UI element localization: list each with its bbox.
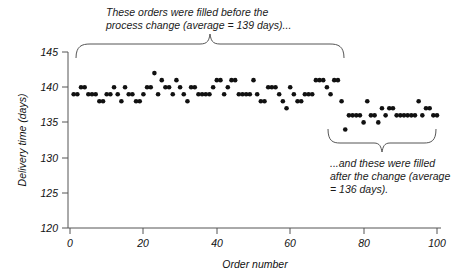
- data-point: [181, 92, 186, 97]
- y-axis-ticks: [62, 52, 68, 228]
- annotation-after-change: ...and these were filled after the chang…: [330, 157, 460, 196]
- data-point: [336, 78, 341, 83]
- data-point: [343, 127, 348, 132]
- data-point: [416, 99, 421, 104]
- brace-before-change: [76, 34, 344, 58]
- data-point: [372, 113, 377, 118]
- data-point-group: [71, 71, 439, 132]
- data-point: [361, 120, 366, 125]
- data-point: [383, 113, 388, 118]
- data-point: [292, 92, 297, 97]
- x-axis-label: Order number: [222, 258, 288, 270]
- y-tick-label: 140: [40, 81, 58, 93]
- y-tick-label: 120: [40, 222, 58, 234]
- data-point: [93, 92, 98, 97]
- x-tick-label: 20: [136, 237, 149, 249]
- data-point: [273, 85, 278, 90]
- data-point: [218, 78, 223, 83]
- y-tick-label: 135: [40, 116, 58, 128]
- y-tick-label: 125: [40, 187, 58, 199]
- data-point: [152, 71, 157, 76]
- data-point: [339, 99, 344, 104]
- x-tick-label: 0: [67, 237, 73, 249]
- brace-after-change: [328, 129, 436, 152]
- data-point: [211, 85, 216, 90]
- data-point: [167, 85, 172, 90]
- data-point: [159, 78, 164, 83]
- data-point: [321, 78, 326, 83]
- data-point: [101, 99, 106, 104]
- data-point: [156, 92, 161, 97]
- x-tick-label: 100: [428, 237, 446, 249]
- data-point: [222, 92, 227, 97]
- annotation-before-change: These orders were filled before the proc…: [106, 6, 356, 32]
- data-point: [262, 99, 267, 104]
- y-axis-label: Delivery time (days): [16, 94, 28, 187]
- data-point: [288, 85, 293, 90]
- data-point: [115, 92, 120, 97]
- data-point: [376, 120, 381, 125]
- x-axis-ticks: [70, 228, 437, 234]
- x-tick-label: 80: [358, 237, 370, 249]
- chart-canvas: 145 140 135 130 125 120 0 20 40 60 80 10…: [0, 0, 471, 280]
- data-point: [251, 78, 256, 83]
- y-tick-label: 130: [40, 152, 58, 164]
- data-point: [277, 92, 282, 97]
- data-point: [255, 92, 260, 97]
- data-point: [248, 92, 253, 97]
- data-point: [137, 99, 142, 104]
- data-point: [108, 92, 113, 97]
- x-tick-label: 60: [284, 237, 296, 249]
- data-point: [207, 92, 212, 97]
- data-point: [281, 99, 286, 104]
- data-point: [141, 92, 146, 97]
- data-point: [130, 92, 135, 97]
- data-point: [325, 85, 330, 90]
- data-point: [391, 106, 396, 111]
- data-point: [328, 92, 333, 97]
- data-point: [284, 106, 289, 111]
- data-point: [192, 85, 197, 90]
- x-tick-label: 40: [211, 237, 223, 249]
- data-point: [185, 99, 190, 104]
- data-point: [75, 92, 80, 97]
- scatter-chart: 145 140 135 130 125 120 0 20 40 60 80 10…: [0, 0, 471, 280]
- data-point: [427, 106, 432, 111]
- data-point: [310, 92, 315, 97]
- data-point: [299, 99, 304, 104]
- data-point: [413, 113, 418, 118]
- data-point: [112, 85, 117, 90]
- data-point: [119, 99, 124, 104]
- y-axis-tick-labels: 145 140 135 130 125 120: [40, 46, 58, 234]
- data-point: [174, 78, 179, 83]
- data-point: [380, 106, 385, 111]
- data-point: [420, 113, 425, 118]
- data-point: [435, 113, 440, 118]
- x-axis-tick-labels: 0 20 40 60 80 100: [67, 237, 446, 249]
- data-point: [148, 85, 153, 90]
- data-point: [233, 78, 238, 83]
- data-point: [170, 92, 175, 97]
- data-point: [358, 113, 363, 118]
- data-point: [82, 85, 87, 90]
- data-point: [365, 99, 370, 104]
- data-point: [178, 85, 183, 90]
- data-point: [226, 85, 231, 90]
- data-point: [123, 85, 128, 90]
- y-tick-label: 145: [40, 46, 58, 58]
